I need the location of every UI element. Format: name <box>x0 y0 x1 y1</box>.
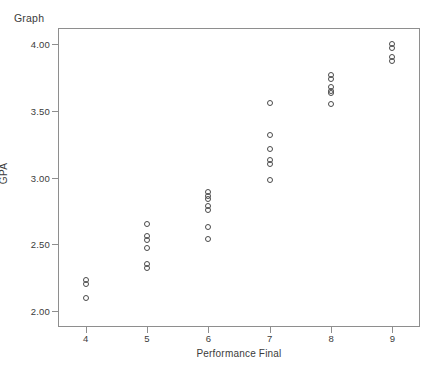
x-tick-label: 6 <box>206 333 211 344</box>
data-point <box>205 236 211 242</box>
y-axis-tick-labels: 2.002.503.003.504.00 <box>0 0 50 370</box>
scatter-plot-figure: Graph 2.002.503.003.504.00 GPA 456789 Pe… <box>0 0 437 370</box>
x-axis-title: Performance Final <box>196 348 281 359</box>
data-point <box>144 221 150 227</box>
data-point <box>144 237 150 243</box>
data-point <box>267 161 273 167</box>
data-point <box>144 245 150 251</box>
x-tick-mark <box>392 327 393 333</box>
data-point <box>267 132 273 138</box>
y-tick-label: 2.00 <box>31 305 50 316</box>
x-tick-mark <box>270 327 271 333</box>
y-axis-title: GPA <box>0 163 9 184</box>
data-point <box>328 76 334 82</box>
y-tick-label: 2.50 <box>31 239 50 250</box>
y-tick-label: 3.00 <box>31 172 50 183</box>
x-tick-mark <box>86 327 87 333</box>
data-point <box>144 265 150 271</box>
y-tick-label: 4.00 <box>31 39 50 50</box>
data-point <box>205 196 211 202</box>
data-point <box>389 58 395 64</box>
data-point <box>328 90 334 96</box>
x-tick-label: 5 <box>144 333 149 344</box>
x-tick-label: 8 <box>328 333 333 344</box>
x-tick-mark <box>331 327 332 333</box>
data-point <box>83 281 89 287</box>
data-point <box>328 101 334 107</box>
x-tick-mark <box>147 327 148 333</box>
data-point <box>205 207 211 213</box>
y-tick-label: 3.50 <box>31 105 50 116</box>
data-point-layer <box>58 28 420 327</box>
x-tick-label: 7 <box>267 333 272 344</box>
x-tick-mark <box>208 327 209 333</box>
data-point <box>267 146 273 152</box>
data-point <box>389 45 395 51</box>
x-tick-label: 4 <box>83 333 88 344</box>
data-point <box>267 100 273 106</box>
data-point <box>267 177 273 183</box>
x-tick-label: 9 <box>390 333 395 344</box>
data-point <box>205 224 211 230</box>
data-point <box>83 295 89 301</box>
